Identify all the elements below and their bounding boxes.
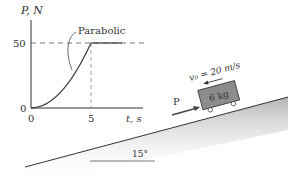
y-axis-label: P, N [20, 4, 43, 17]
velocity-label: v₀ = 20 m/s [188, 60, 242, 83]
x-tick-0: 0 [28, 113, 34, 124]
x-axis-label: t, s [126, 113, 142, 124]
force-time-graph: P, N 50 0 0 5 t, s Parabolic [13, 4, 148, 124]
force-arrow [172, 108, 197, 115]
parabolic-annotation: Parabolic [78, 25, 126, 36]
annotation-leader [68, 32, 76, 70]
diagram-canvas: P, N 50 0 0 5 t, s Parabolic 15° 6 kg v₀… [0, 0, 288, 182]
force-label: P [173, 96, 180, 107]
velocity-arrowhead [203, 81, 209, 86]
force-arrowhead [193, 106, 200, 111]
incline-shading [25, 97, 288, 182]
incline: 15° [25, 97, 288, 182]
parabolic-curve [31, 43, 91, 108]
angle-label: 15° [132, 149, 148, 159]
y-tick-0: 0 [20, 103, 26, 114]
x-tick-5: 5 [88, 113, 94, 124]
y-tick-50: 50 [13, 38, 26, 49]
force-p: P [172, 96, 200, 115]
